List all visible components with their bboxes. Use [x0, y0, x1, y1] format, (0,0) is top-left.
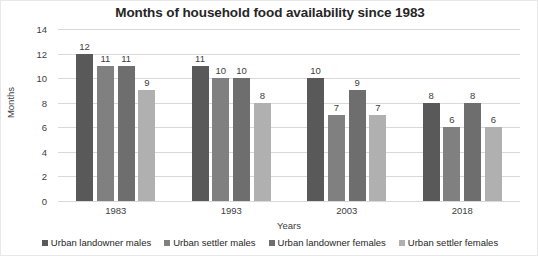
bar[interactable] — [118, 66, 135, 201]
legend-item-2[interactable]: Urban landowner females — [269, 237, 386, 248]
bar-group-1993: 1110108 — [174, 29, 290, 201]
bar[interactable] — [485, 127, 502, 201]
bar[interactable] — [423, 103, 440, 201]
bar-slot: 9 — [138, 29, 155, 201]
y-axis-tick-0: 0 — [42, 196, 47, 207]
bar-slot: 8 — [254, 29, 271, 201]
bar-slot: 11 — [97, 29, 114, 201]
bar[interactable] — [464, 103, 481, 201]
bar-value-label: 8 — [428, 90, 433, 101]
bar-value-label: 9 — [144, 77, 149, 88]
x-axis-tick-1993: 1993 — [174, 205, 290, 216]
legend-swatch-icon — [164, 240, 170, 246]
y-axis-tick-12: 12 — [36, 48, 47, 59]
bar-group-2018: 8686 — [405, 29, 521, 201]
y-axis-tick-2: 2 — [42, 171, 47, 182]
x-axis-tick-2018: 2018 — [405, 205, 521, 216]
bar-value-label: 11 — [100, 53, 110, 64]
y-axis-tick-labels: 02468101214 — [1, 29, 54, 201]
legend-label: Urban landowner females — [278, 237, 386, 248]
legend-label: Urban landowner males — [51, 237, 151, 248]
bar-value-label: 6 — [491, 114, 496, 125]
y-axis-tick-8: 8 — [42, 97, 47, 108]
legend-swatch-icon — [42, 240, 48, 246]
legend-label: Urban settler females — [408, 237, 498, 248]
bar[interactable] — [254, 103, 271, 201]
bar-slot: 7 — [369, 29, 386, 201]
bar-value-label: 7 — [334, 102, 339, 113]
chart-container: Months of household food availability si… — [0, 0, 538, 256]
bar-slot: 7 — [328, 29, 345, 201]
plot-area: 121111919831110108199310797200386862018 — [58, 29, 520, 201]
x-axis-tick-1983: 1983 — [58, 205, 174, 216]
y-axis-tick-14: 14 — [36, 24, 47, 35]
bar[interactable] — [369, 115, 386, 201]
bar-slot: 6 — [443, 29, 460, 201]
bar-value-label: 11 — [195, 53, 205, 64]
bar-slot: 12 — [76, 29, 93, 201]
legend-item-0[interactable]: Urban landowner males — [42, 237, 151, 248]
y-axis-tick-4: 4 — [42, 146, 47, 157]
bar[interactable] — [307, 78, 324, 201]
bar-slot: 11 — [118, 29, 135, 201]
y-axis-tick-10: 10 — [36, 73, 47, 84]
bar[interactable] — [328, 115, 345, 201]
bar-value-label: 8 — [470, 90, 475, 101]
bar[interactable] — [212, 78, 229, 201]
bar-slot: 6 — [485, 29, 502, 201]
legend-swatch-icon — [399, 240, 405, 246]
bar-slot: 8 — [423, 29, 440, 201]
bar-group-1983: 1211119 — [58, 29, 174, 201]
bar-slot: 9 — [349, 29, 366, 201]
bar-slot: 10 — [212, 29, 229, 201]
legend-item-1[interactable]: Urban settler males — [164, 237, 255, 248]
legend-label: Urban settler males — [173, 237, 255, 248]
bar-group-2003: 10797 — [289, 29, 405, 201]
bar[interactable] — [443, 127, 460, 201]
bar-value-label: 8 — [260, 90, 265, 101]
bar-slot: 10 — [307, 29, 324, 201]
legend-item-3[interactable]: Urban settler females — [399, 237, 498, 248]
x-axis-tick-2003: 2003 — [289, 205, 405, 216]
bar-value-label: 10 — [216, 65, 227, 76]
bar-slot: 10 — [233, 29, 250, 201]
bar-slot: 8 — [464, 29, 481, 201]
gridline — [58, 201, 520, 202]
bar[interactable] — [192, 66, 209, 201]
bar-slot: 11 — [192, 29, 209, 201]
bar-value-label: 7 — [375, 102, 380, 113]
bar-value-label: 11 — [121, 53, 131, 64]
chart-title: Months of household food availability si… — [1, 5, 538, 20]
bar-value-label: 6 — [449, 114, 454, 125]
bar[interactable] — [138, 90, 155, 201]
legend-swatch-icon — [269, 240, 275, 246]
bar[interactable] — [76, 54, 93, 201]
bar-value-label: 12 — [79, 41, 90, 52]
chart-legend: Urban landowner malesUrban settler males… — [1, 237, 538, 248]
bar-value-label: 9 — [354, 77, 359, 88]
bar[interactable] — [97, 66, 114, 201]
bar[interactable] — [233, 78, 250, 201]
bar[interactable] — [349, 90, 366, 201]
bar-value-label: 10 — [236, 65, 247, 76]
x-axis-title: Years — [58, 220, 520, 231]
y-axis-tick-6: 6 — [42, 122, 47, 133]
bar-value-label: 10 — [310, 65, 321, 76]
